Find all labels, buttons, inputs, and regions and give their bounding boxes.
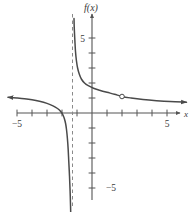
plot-background bbox=[0, 0, 194, 212]
hole-group bbox=[120, 94, 125, 99]
graph-canvas: f(x) x −5 5 5 −5 bbox=[0, 0, 194, 212]
function-graph-figure: f(x) x −5 5 5 −5 bbox=[0, 0, 194, 212]
y-tick-label-five: 5 bbox=[80, 34, 85, 44]
function-label: f(x) bbox=[84, 2, 99, 14]
open-circle-hole bbox=[120, 94, 125, 99]
x-tick-label-negative-five: −5 bbox=[12, 119, 22, 129]
x-axis-label: x bbox=[183, 109, 188, 119]
x-tick-label-five: 5 bbox=[165, 119, 170, 129]
y-tick-label-negative-five: −5 bbox=[106, 183, 116, 193]
